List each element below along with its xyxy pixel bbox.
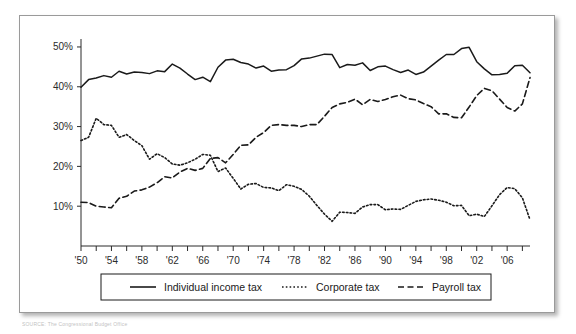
- x-tick-label: '98: [440, 255, 453, 266]
- x-axis: '50'54'58'62'66'70'74'78'82'86'90'94'98'…: [74, 246, 530, 266]
- x-tick-label: '74: [257, 255, 270, 266]
- x-tick-label: '90: [379, 255, 392, 266]
- legend-label: Corporate tax: [316, 281, 380, 293]
- x-tick-label: '86: [348, 255, 361, 266]
- source-note: SOURCE: The Congressional Budget Office: [22, 321, 127, 327]
- legend-label: Payroll tax: [432, 281, 482, 293]
- x-tick-label: '62: [166, 255, 179, 266]
- x-tick-label: '70: [227, 255, 240, 266]
- series-line-corporate-tax: [81, 118, 530, 221]
- chart-series-group: [81, 47, 530, 221]
- x-tick-label: '50: [74, 255, 87, 266]
- legend-label: Individual income tax: [164, 281, 263, 293]
- x-tick-label: '94: [409, 255, 422, 266]
- series-line-payroll-tax: [81, 78, 530, 208]
- tax-revenue-line-chart: 10%20%30%40%50% '50'54'58'62'66'70'74'78…: [20, 16, 554, 312]
- x-tick-label: '78: [288, 255, 301, 266]
- x-tick-label: '02: [470, 255, 483, 266]
- x-tick-label: '58: [135, 255, 148, 266]
- y-axis-tick-labels: 10%20%30%40%50%: [53, 41, 73, 211]
- figure-frame: 10%20%30%40%50% '50'54'58'62'66'70'74'78…: [19, 15, 555, 313]
- x-axis-ticks: [81, 246, 522, 251]
- y-tick-label: 10%: [53, 201, 73, 212]
- x-tick-label: '06: [501, 255, 514, 266]
- y-tick-label: 20%: [53, 161, 73, 172]
- series-line-individual-income-tax: [81, 47, 530, 87]
- y-axis: 10%20%30%40%50%: [53, 39, 81, 246]
- y-axis-ticks: [77, 47, 81, 206]
- y-tick-label: 50%: [53, 41, 73, 52]
- y-tick-label: 30%: [53, 121, 73, 132]
- x-axis-tick-labels: '50'54'58'62'66'70'74'78'82'86'90'94'98'…: [74, 255, 514, 266]
- chart-legend: Individual income taxCorporate taxPayrol…: [101, 274, 491, 300]
- x-tick-label: '66: [196, 255, 209, 266]
- y-tick-label: 40%: [53, 81, 73, 92]
- x-tick-label: '54: [105, 255, 118, 266]
- x-tick-label: '82: [318, 255, 331, 266]
